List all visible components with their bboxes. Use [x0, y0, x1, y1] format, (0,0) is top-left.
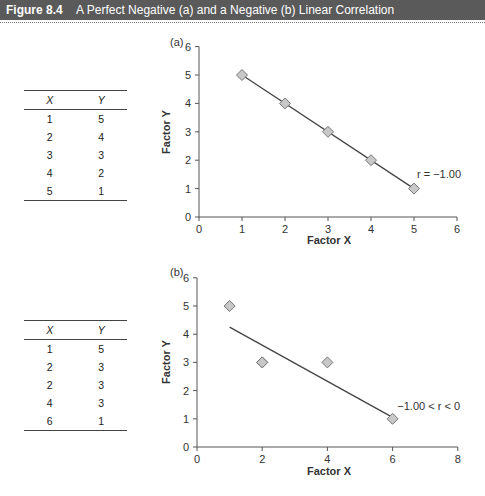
scatter-chart-b: 012345602468(b)Factor YFactor X−1.00 < r… [0, 0, 485, 496]
y-tick-label: 1 [183, 413, 189, 425]
x-tick-label: 8 [455, 453, 461, 465]
panel-label: (b) [170, 266, 183, 278]
correlation-annotation: −1.00 < r < 0 [397, 400, 460, 412]
y-tick-label: 2 [183, 385, 189, 397]
y-tick-label: 0 [183, 441, 189, 453]
x-axis-title: Factor X [307, 465, 352, 477]
diamond-marker [224, 301, 235, 312]
x-tick-label: 6 [390, 453, 396, 465]
y-tick-label: 6 [183, 272, 189, 284]
y-tick-label: 3 [183, 356, 189, 368]
diamond-marker [322, 357, 333, 368]
x-tick-label: 0 [194, 453, 200, 465]
x-tick-label: 4 [324, 453, 330, 465]
regression-line [230, 327, 393, 417]
y-tick-label: 5 [183, 300, 189, 312]
y-axis-title: Factor Y [160, 339, 172, 383]
x-tick-label: 2 [259, 453, 265, 465]
y-tick-label: 4 [183, 328, 189, 340]
diamond-marker [257, 357, 268, 368]
